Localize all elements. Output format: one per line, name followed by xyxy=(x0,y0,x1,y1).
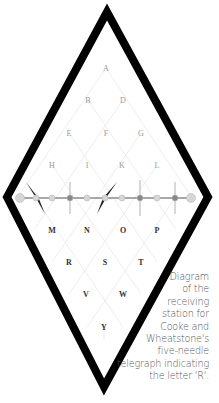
letter-b: B xyxy=(85,96,90,105)
letter-g: G xyxy=(138,129,144,138)
letter-h: H xyxy=(49,161,55,170)
letter-p: P xyxy=(155,226,160,235)
letter-o: O xyxy=(120,226,126,235)
caption-line: station for xyxy=(91,308,209,320)
letter-d: D xyxy=(120,96,126,105)
caption-line: the letter 'R'. xyxy=(91,370,209,382)
figure-caption: Diagramof thereceivingstation forCooke a… xyxy=(91,271,209,383)
letter-s: S xyxy=(103,258,108,267)
letter-n: N xyxy=(84,226,90,235)
letter-k: K xyxy=(119,161,125,170)
letter-i: I xyxy=(86,161,89,170)
letter-t: T xyxy=(138,258,144,267)
letter-l: L xyxy=(155,161,160,170)
caption-line: five-needle xyxy=(91,345,209,357)
caption-line: Cooke and xyxy=(91,321,209,333)
caption-line: of the xyxy=(91,283,209,295)
caption-line: telegraph indicating xyxy=(91,358,209,370)
caption-line: Diagram xyxy=(91,271,209,283)
letter-m: M xyxy=(48,226,56,235)
letter-v: V xyxy=(83,290,89,299)
letter-f: F xyxy=(104,129,109,138)
caption-line: receiving xyxy=(91,296,209,308)
letter-a: A xyxy=(103,64,109,73)
caption-line: Wheatstone's xyxy=(91,333,209,345)
letter-r: R xyxy=(66,258,72,267)
letter-e: E xyxy=(67,129,72,138)
